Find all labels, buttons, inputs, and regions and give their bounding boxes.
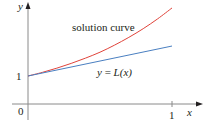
label-arg: (x) bbox=[120, 66, 133, 79]
chart-svg: 0 1 1 x y solution curve y = L(x) bbox=[0, 0, 206, 131]
label-func: L bbox=[113, 66, 120, 78]
label-eq: = bbox=[102, 66, 114, 78]
y-tick-label-1: 1 bbox=[16, 70, 22, 82]
x-axis-arrow-icon bbox=[196, 102, 203, 107]
x-axis-label: x bbox=[186, 106, 192, 118]
y-axis-arrow-icon bbox=[26, 2, 31, 9]
x-tick-label-1: 1 bbox=[169, 109, 175, 121]
x-tick-label-0: 0 bbox=[18, 105, 24, 117]
solution-curve-label: solution curve bbox=[72, 21, 135, 33]
y-axis-label: y bbox=[17, 0, 23, 12]
linear-approximation-label: y = L(x) bbox=[96, 66, 132, 79]
